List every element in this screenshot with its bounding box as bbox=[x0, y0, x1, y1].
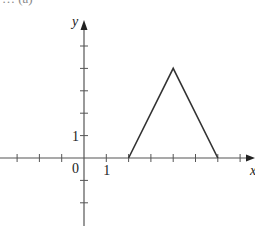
y-axis-arrow-icon bbox=[81, 20, 88, 30]
function-graph: yx011 bbox=[0, 0, 255, 226]
y-tick-label-1: 1 bbox=[72, 129, 79, 144]
x-axis-label: x bbox=[249, 163, 255, 178]
y-axis-label: y bbox=[70, 14, 79, 29]
x-axis-arrow-icon bbox=[246, 155, 255, 162]
origin-label: 0 bbox=[72, 161, 79, 176]
x-tick-label-1: 1 bbox=[103, 163, 110, 178]
triangle-function-line bbox=[129, 68, 218, 158]
